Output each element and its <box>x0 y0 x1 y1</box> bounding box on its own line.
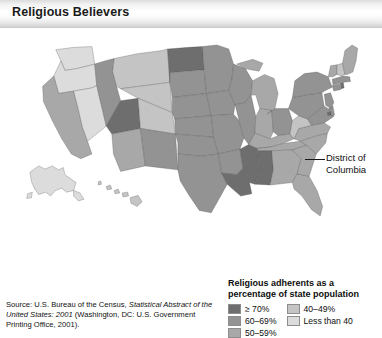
legend-item-label: 50–59% <box>245 328 277 338</box>
map-container: District of Columbia Source: U.S. Bureau… <box>0 28 382 313</box>
state-MT[interactable] <box>113 49 170 89</box>
legend-item[interactable]: 60–69% <box>228 315 277 326</box>
legend-item[interactable]: Less than 40 <box>287 315 353 326</box>
state-SD[interactable] <box>170 70 207 98</box>
legend-item-label: 40–49% <box>304 304 336 314</box>
legend-swatch <box>287 316 300 326</box>
state-AZ[interactable] <box>112 129 145 172</box>
us-choropleth-map <box>14 30 364 262</box>
source-suffix-1: (Washington, DC: U.S. <box>73 310 152 319</box>
legend-item-label: ≥ 70% <box>245 304 269 314</box>
page-title: Religious Believers <box>12 5 129 19</box>
state-DC[interactable] <box>327 112 331 116</box>
dc-annotation-line1: District of <box>326 152 366 164</box>
source-prefix: Source: U.S. Bureau of the Census, <box>6 300 129 309</box>
legend-swatch <box>228 316 241 326</box>
legend-title-line1: Religious adherents as a <box>228 278 378 289</box>
state-ME[interactable] <box>343 45 358 74</box>
title-bar: Religious Believers <box>0 0 382 28</box>
dc-leader-line <box>305 159 325 160</box>
state-HI[interactable] <box>98 181 142 206</box>
state-OK[interactable] <box>175 134 218 156</box>
legend-swatch <box>228 304 241 314</box>
legend-title: Religious adherents as a percentage of s… <box>228 278 378 300</box>
legend-column-left: ≥ 70% 60–69% 50–59% <box>228 303 277 338</box>
state-CT[interactable] <box>332 84 341 91</box>
state-AR[interactable] <box>218 149 243 174</box>
state-RI[interactable] <box>340 82 344 88</box>
legend-item-label: 60–69% <box>245 316 277 326</box>
state-FL[interactable] <box>292 174 322 216</box>
legend-title-line2: percentage of state population <box>228 289 378 300</box>
legend-item-label: Less than 40 <box>304 316 353 326</box>
state-KS[interactable] <box>175 116 214 137</box>
state-MN[interactable] <box>203 45 234 94</box>
map-states-group <box>27 45 358 216</box>
state-AK[interactable] <box>27 166 84 201</box>
state-NJ[interactable] <box>324 93 334 109</box>
state-NE[interactable] <box>172 94 211 119</box>
source-italic-1: Statistical Abstract <box>129 300 191 309</box>
source-note: Source: U.S. Bureau of the Census, Stati… <box>6 300 218 330</box>
dc-annotation: District of Columbia <box>326 152 366 175</box>
legend-column-right: 40–49% Less than 40 <box>287 303 353 338</box>
legend-item[interactable]: ≥ 70% <box>228 303 277 314</box>
legend-item[interactable]: 50–59% <box>228 327 277 338</box>
state-NM[interactable] <box>140 129 177 170</box>
legend-item[interactable]: 40–49% <box>287 303 353 314</box>
dc-annotation-line2: Columbia <box>326 164 366 176</box>
legend-swatch <box>228 328 241 338</box>
state-VT[interactable] <box>328 65 337 77</box>
legend-columns: ≥ 70% 60–69% 50–59% 40–49% Les <box>228 303 380 338</box>
map-legend: Religious adherents as a percentage of s… <box>228 278 380 338</box>
legend-swatch <box>287 304 300 314</box>
